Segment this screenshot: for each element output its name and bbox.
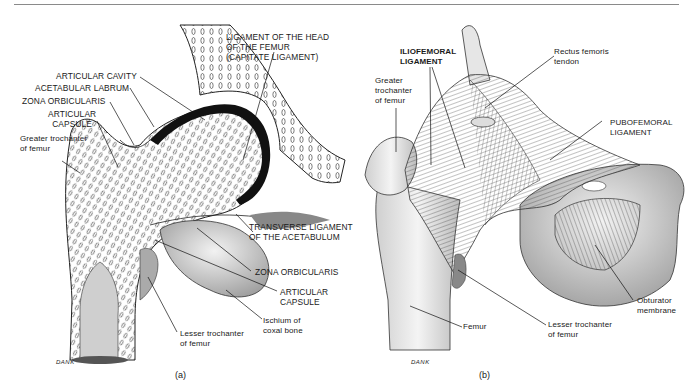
label-line: Obturator [637,296,676,306]
label-zona-orbicularis-top: ZONA ORBICULARIS [22,96,106,106]
label-line: CAPSULE [280,297,328,307]
label-line: ARTICULAR [280,287,328,297]
label-line: LIGAMENT [610,128,672,138]
label-line: of femur [548,330,612,340]
label-line: ILIOFEMORAL [400,47,456,57]
artist-signature-b: DANK [411,359,430,365]
label-zona-orbicularis-bottom: ZONA ORBICULARIS [255,267,339,277]
label-line: coxal bone [263,326,303,336]
label-line: of femur [20,144,87,154]
label-transverse-ligament: TRANSVERSE LIGAMENT OF THE ACETABULUM [249,222,353,242]
label-greater-trochanter-a: Greater trochanter of femur [20,134,87,154]
label-line: TRANSVERSE LIGAMENT [249,222,353,232]
panel-a-caption: (a) [175,370,186,380]
label-line: tendon [554,57,609,67]
label-iliofemoral-ligament: ILIOFEMORAL LIGAMENT [400,47,456,67]
label-lesser-trochanter-a: Lesser trochanter of femur [180,329,244,349]
label-capitate-ligament: LIGAMENT OF THE HEAD OF THE FEMUR (CAPIT… [226,32,329,62]
label-obturator-membrane: Obturator membrane [637,296,676,316]
label-line: LIGAMENT [400,57,456,67]
label-line: OF THE ACETABULUM [249,232,353,242]
label-line: CAPSULE [48,119,96,129]
label-rectus-femoris-tendon: Rectus femoris tendon [554,47,609,67]
label-line: OF THE FEMUR [226,42,329,52]
label-pubofemoral-ligament: PUBOFEMORAL LIGAMENT [610,118,672,138]
label-line: Greater trochanter [20,134,87,144]
label-lesser-trochanter-b: Lesser trochanter of femur [548,320,612,340]
label-line: of femur [180,339,244,349]
artist-signature-a: DANK [56,359,75,365]
label-articular-capsule-top: ARTICULAR CAPSULE [48,109,96,129]
label-line: Lesser trochanter [180,329,244,339]
label-femur: Femur [463,322,487,332]
label-line: Greater [375,76,412,86]
label-line: trochanter [375,86,412,96]
label-ischium: Ischium of coxal bone [263,316,303,336]
label-line: Ischium of [263,316,303,326]
panel-b-caption: (b) [479,370,490,380]
label-line: (CAPITATE LIGAMENT) [226,52,329,62]
label-line: Rectus femoris [554,47,609,57]
label-articular-capsule-bottom: ARTICULAR CAPSULE [280,287,328,307]
label-line: LIGAMENT OF THE HEAD [226,32,329,42]
label-articular-cavity: ARTICULAR CAVITY [56,71,137,81]
label-line: ARTICULAR [48,109,96,119]
label-acetabular-labrum: ACETABULAR LABRUM [35,83,129,93]
label-line: PUBOFEMORAL [610,118,672,128]
label-line: of femur [375,96,412,106]
label-line: Lesser trochanter [548,320,612,330]
label-line: membrane [637,306,676,316]
label-greater-trochanter-b: Greater trochanter of femur [375,76,412,106]
